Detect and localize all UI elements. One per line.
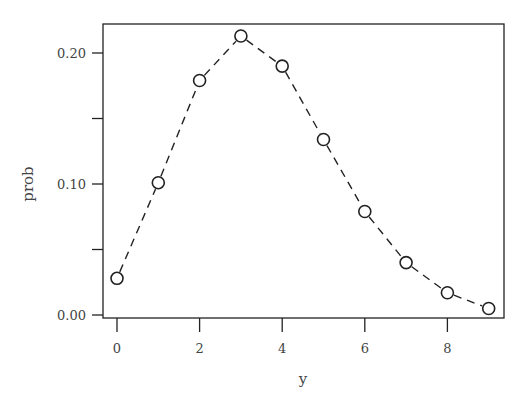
series-line (120, 40, 482, 306)
data-point-marker (318, 133, 330, 145)
data-point-marker (235, 30, 247, 42)
data-point-marker (441, 287, 453, 299)
x-tick-label: 6 (361, 341, 369, 356)
y-tick-label: 0.10 (57, 177, 86, 192)
data-point-marker (194, 75, 206, 87)
x-tick-label: 2 (195, 341, 203, 356)
chart: 0.000.100.20 02468 y prob (0, 0, 531, 406)
x-tick-label: 0 (113, 341, 121, 356)
data-point-marker (111, 272, 123, 284)
data-point-marker (400, 257, 412, 269)
data-point-marker (359, 206, 371, 218)
series-markers (111, 30, 495, 314)
y-axis: 0.000.100.20 (57, 46, 103, 323)
x-axis-title: y (298, 370, 308, 388)
y-tick-label: 0.20 (57, 46, 86, 61)
data-point-marker (276, 60, 288, 72)
y-axis-title: prob (19, 166, 37, 201)
x-tick-label: 4 (278, 341, 286, 356)
data-point-marker (483, 302, 495, 314)
x-tick-label: 8 (443, 341, 451, 356)
x-axis: 02468 (113, 318, 452, 356)
data-point-marker (152, 177, 164, 189)
y-tick-label: 0.00 (57, 308, 86, 323)
